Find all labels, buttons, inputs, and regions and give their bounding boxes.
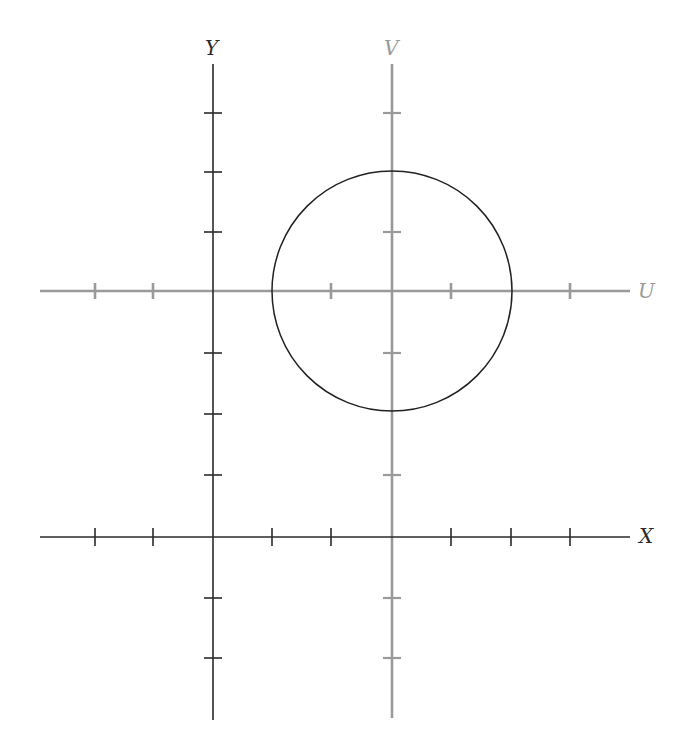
uv-axes	[40, 64, 630, 718]
diagram-canvas: Y V U X	[0, 0, 692, 754]
u-axis-label: U	[638, 281, 655, 301]
coordinate-diagram	[0, 0, 692, 754]
v-axis-label: V	[384, 38, 398, 58]
x-axis-label: X	[639, 526, 653, 546]
xy-axes	[40, 64, 630, 720]
y-axis-label: Y	[205, 38, 218, 58]
